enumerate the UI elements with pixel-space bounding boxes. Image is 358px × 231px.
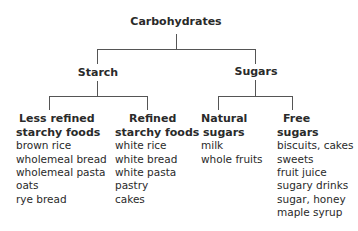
connector <box>97 49 256 50</box>
connector <box>255 49 256 64</box>
list-item: maple syrup <box>277 206 354 219</box>
group-natural-sugars: Natural sugars milk whole fruits <box>201 112 263 166</box>
group-title: sugars <box>277 126 354 140</box>
connector <box>218 96 219 110</box>
group-title: Refined <box>115 112 199 126</box>
list-item: oats <box>16 179 107 192</box>
list-item: rye bread <box>16 193 107 206</box>
list-item: whole fruits <box>201 153 263 166</box>
list-item: milk <box>201 139 263 152</box>
list-item: pastry <box>115 179 199 192</box>
list-item: white bread <box>115 153 199 166</box>
group-title: sugars <box>201 126 263 140</box>
list-item: sweets <box>277 153 354 166</box>
group-free-sugars: Free sugars biscuits, cakes sweets fruit… <box>277 112 354 220</box>
connector <box>255 80 256 96</box>
group-less-refined-starchy-foods: Less refined starchy foods brown rice wh… <box>16 112 107 206</box>
connector <box>97 49 98 64</box>
list-item: fruit juice <box>277 166 354 179</box>
list-item: white pasta <box>115 166 199 179</box>
group-title: Natural <box>201 112 263 126</box>
group-title: Less refined <box>16 112 107 126</box>
list-item: biscuits, cakes <box>277 139 354 152</box>
list-item: cakes <box>115 193 199 206</box>
connector <box>147 96 148 110</box>
connector <box>49 96 50 110</box>
list-item: wholemeal pasta <box>16 166 107 179</box>
group-refined-starchy-foods: Refined starchy foods white rice white b… <box>115 112 199 206</box>
connector <box>292 96 293 110</box>
list-item: wholemeal bread <box>16 153 107 166</box>
node-starch: Starch <box>78 66 118 79</box>
group-title: Free <box>277 112 354 126</box>
node-sugars: Sugars <box>234 65 277 78</box>
connector <box>97 81 98 96</box>
connector <box>49 96 148 97</box>
root-node-carbohydrates: Carbohydrates <box>130 15 221 28</box>
connector <box>218 96 293 97</box>
group-title: starchy foods <box>115 126 199 140</box>
list-item: brown rice <box>16 139 107 152</box>
connector <box>176 34 177 50</box>
list-item: sugar, honey <box>277 193 354 206</box>
list-item: sugary drinks <box>277 179 354 192</box>
group-title: starchy foods <box>16 126 107 140</box>
list-item: white rice <box>115 139 199 152</box>
